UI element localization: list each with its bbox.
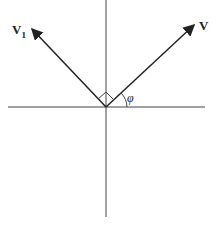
label-v1: V1: [12, 22, 26, 40]
label-phi: φ: [127, 91, 134, 106]
vector-v1-arrow: [32, 29, 106, 107]
vector-diagram: [0, 0, 218, 225]
label-v: V: [199, 18, 208, 34]
vector-v-arrow: [106, 25, 194, 107]
